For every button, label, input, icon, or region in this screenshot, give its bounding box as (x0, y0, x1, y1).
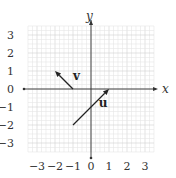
x-tick-label: 2 (124, 160, 131, 173)
y-tick-label: −2 (0, 119, 14, 132)
y-tick-label: 0 (7, 83, 14, 96)
x-tick-label: 3 (142, 160, 149, 173)
vector-v-shaft (59, 75, 73, 89)
coordinate-plane: −3−2−101233210−1−2−3 vu x y (0, 0, 176, 178)
y-tick-label: −3 (0, 137, 14, 150)
y-tick-label: 1 (7, 65, 14, 78)
y-axis-label: y (85, 9, 93, 23)
vector-u-label: u (99, 96, 108, 110)
x-tick-label: −3 (29, 160, 45, 173)
x-tick-label: 0 (88, 160, 95, 173)
x-axis-label: x (162, 82, 169, 96)
x-axis-end-dot (23, 88, 26, 91)
x-tick-label: −1 (65, 160, 81, 173)
vector-v: v (55, 69, 81, 89)
y-tick-label: −1 (0, 101, 14, 114)
y-axis-end-dot (90, 157, 93, 160)
y-tick-label: 2 (7, 47, 14, 60)
y-tick-label: 3 (7, 29, 14, 42)
x-tick-label: 1 (106, 160, 113, 173)
tick-labels: −3−2−101233210−1−2−3 (0, 29, 149, 173)
x-axis-arrow-icon (153, 87, 158, 91)
vector-v-label: v (72, 69, 81, 83)
x-tick-label: −2 (47, 160, 63, 173)
